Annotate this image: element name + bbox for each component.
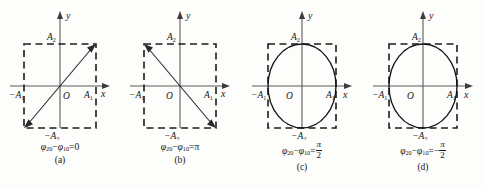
panel-a-equation: φ20−φ10=0 [0,143,120,153]
panel-d-label: (d) [363,163,483,173]
y-positive-label: A2 [46,32,56,43]
panel-d-plot: y x O A2 −A2 −A1 A1 [363,0,483,140]
panel-b-label: (b) [120,156,240,166]
y-negative-label: −A2 [44,131,59,140]
panel-b-plot: y x O A2 −A2 −A1 A1 [120,0,240,140]
origin-label: O [407,91,414,101]
y-positive-label: A2 [411,32,421,43]
fraction-pi-over-2: π2 [316,140,323,160]
y-negative-label: −A2 [412,131,427,140]
panel-d-caption: φ20−φ10=−π2 (d) [363,140,483,173]
y-axis-arrowhead [57,11,63,19]
line-arrowhead-lower [24,119,33,128]
fraction-denominator: 2 [316,151,323,160]
panel-a: y x O A2 −A2 −A1 A1 φ20−φ10=0 (a) [0,0,120,189]
x-axis-label: x [463,89,469,100]
panel-b: y x O A2 −A2 −A1 A1 φ20−φ10=π (b) [120,0,240,189]
x-axis-label: x [342,89,348,100]
y-axis-arrowhead [420,11,426,19]
y-axis-label: y [307,10,313,21]
fraction-denominator: 2 [439,151,446,160]
panel-c-plot: y x O A2 −A2 −A1 A1 [242,0,362,140]
y-positive-label: A2 [166,32,176,43]
panel-a-label: (a) [0,156,120,166]
x-negative-label: −A1 [9,90,24,101]
panel-a-caption: φ20−φ10=0 (a) [0,143,120,166]
fraction-numerator: π [439,140,446,149]
lissajous-figure: y x O A2 −A2 −A1 A1 φ20−φ10=0 (a) y x O [0,0,483,189]
x-positive-label: A1 [83,90,93,101]
origin-label: O [286,91,293,101]
x-negative-label: −A1 [251,90,266,101]
x-positive-label: A1 [325,90,335,101]
origin-label: O [166,91,173,101]
panel-c: y x O A2 −A2 −A1 A1 φ20−φ10=π2 (c) [242,0,362,189]
x-positive-label: A1 [446,90,456,101]
y-axis-label: y [65,10,71,21]
y-negative-label: −A2 [291,131,306,140]
y-axis-arrowhead [299,11,305,19]
panel-b-equation: φ20−φ10=π [120,143,240,153]
line-arrowhead-upper [144,44,153,53]
panel-c-label: (c) [242,163,362,173]
x-positive-label: A1 [203,90,213,101]
line-arrowhead-lower [207,119,216,128]
fraction-pi-over-2: π2 [439,140,446,160]
x-axis-label: x [220,88,226,99]
x-negative-label: −A1 [372,90,387,101]
origin-label: O [63,91,70,101]
y-axis-label: y [185,10,191,21]
x-axis-label: x [100,88,106,99]
y-positive-label: A2 [290,32,300,43]
panel-c-equation: φ20−φ10=π2 [242,140,362,160]
panel-b-caption: φ20−φ10=π (b) [120,143,240,166]
x-negative-label: −A1 [129,90,144,101]
panel-d: y x O A2 −A2 −A1 A1 φ20−φ10=−π2 (d) [363,0,483,189]
y-axis-label: y [428,10,434,21]
panel-a-plot: y x O A2 −A2 −A1 A1 [0,0,120,140]
y-negative-label: −A2 [164,131,179,140]
line-arrowhead-upper [87,44,96,53]
fraction-numerator: π [316,140,323,149]
panel-c-caption: φ20−φ10=π2 (c) [242,140,362,173]
y-axis-arrowhead [177,11,183,19]
panel-d-equation: φ20−φ10=−π2 [363,140,483,160]
